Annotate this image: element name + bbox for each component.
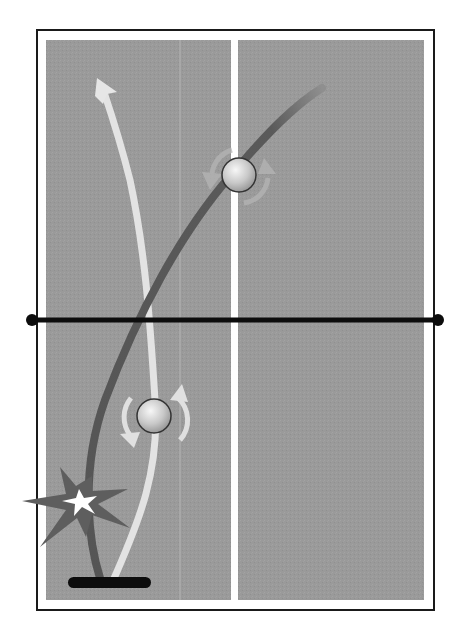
table-tennis-diagram — [0, 0, 462, 642]
ball-icon — [137, 399, 171, 433]
net-post-left — [26, 314, 38, 326]
paddle — [68, 577, 151, 588]
net-post-right — [432, 314, 444, 326]
ball-icon — [222, 158, 256, 192]
